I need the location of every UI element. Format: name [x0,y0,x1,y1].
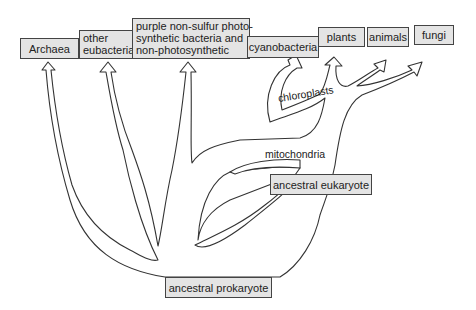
branch-archaea [42,55,422,277]
leaf-label: plants [327,31,356,43]
leaf-label: fungi [422,29,446,41]
leaf-cyanobacteria: cyanobacteria [247,36,319,58]
leaf-label-line: synthetic bacteria and [136,32,246,44]
node-label: ancestral eukaryote [273,179,369,191]
leaf-label-line: non-photosynthetic [136,44,246,56]
node-ancestral-prokaryote: ancestral prokaryote [165,277,272,298]
leaf-label-line: eubacteria [83,44,129,56]
leaf-other-eubacteria: other eubacteria [79,30,133,59]
leaf-animals: animals [367,27,409,47]
node-ancestral-eukaryote: ancestral eukaryote [270,174,372,195]
leaf-fungi: fungi [414,25,454,45]
leaf-label-line: other [83,32,129,44]
label-mitochondria: mitochondria [265,148,325,160]
leaf-label: cyanobacteria [249,41,318,53]
leaf-label-line: purple non-sulfur photo- [136,20,246,32]
node-label: ancestral prokaryote [169,282,269,294]
leaf-label: Archaea [29,43,70,55]
leaf-archaea: Archaea [20,38,79,59]
leaf-plants: plants [318,27,365,47]
leaf-purple-bacteria: purple non-sulfur photo- synthetic bacte… [132,18,250,59]
leaf-label: animals [369,31,407,43]
